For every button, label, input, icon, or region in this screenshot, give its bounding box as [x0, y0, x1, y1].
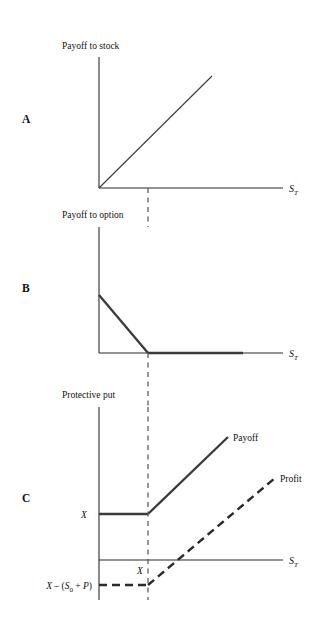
- panel-a-x-axis-label: ST: [289, 183, 299, 197]
- panel-c: C Protective put X X X – (S0 + P) Payoff…: [22, 390, 302, 600]
- panel-b-title: Payoff to option: [62, 210, 124, 220]
- panel-a-title: Payoff to stock: [62, 41, 120, 51]
- panel-b-put-payoff-slope: [99, 295, 148, 353]
- panel-c-breakeven-label: X – (S0 + P): [45, 581, 92, 594]
- panel-b-letter: B: [22, 282, 30, 294]
- panel-c-profit-slope: [148, 478, 275, 585]
- panel-c-payoff-slope: [148, 437, 228, 514]
- panel-a: A Payoff to stock ST: [22, 41, 299, 197]
- panel-c-letter: C: [22, 492, 30, 504]
- protective-put-figure: A Payoff to stock ST B Payoff to option …: [0, 0, 327, 627]
- panel-c-x-tick-x: X: [136, 566, 144, 576]
- panel-c-profit-label: Profit: [280, 474, 302, 484]
- panel-c-payoff-label: Payoff: [233, 433, 259, 443]
- panel-b: B Payoff to option ST: [22, 210, 299, 362]
- panel-c-y-tick-x: X: [80, 510, 88, 520]
- panel-c-x-axis-label: ST: [289, 555, 299, 569]
- panel-b-x-axis-label: ST: [289, 348, 299, 362]
- panel-a-stock-payoff-line: [99, 76, 212, 188]
- panel-c-title: Protective put: [62, 390, 115, 400]
- panel-a-letter: A: [22, 113, 31, 125]
